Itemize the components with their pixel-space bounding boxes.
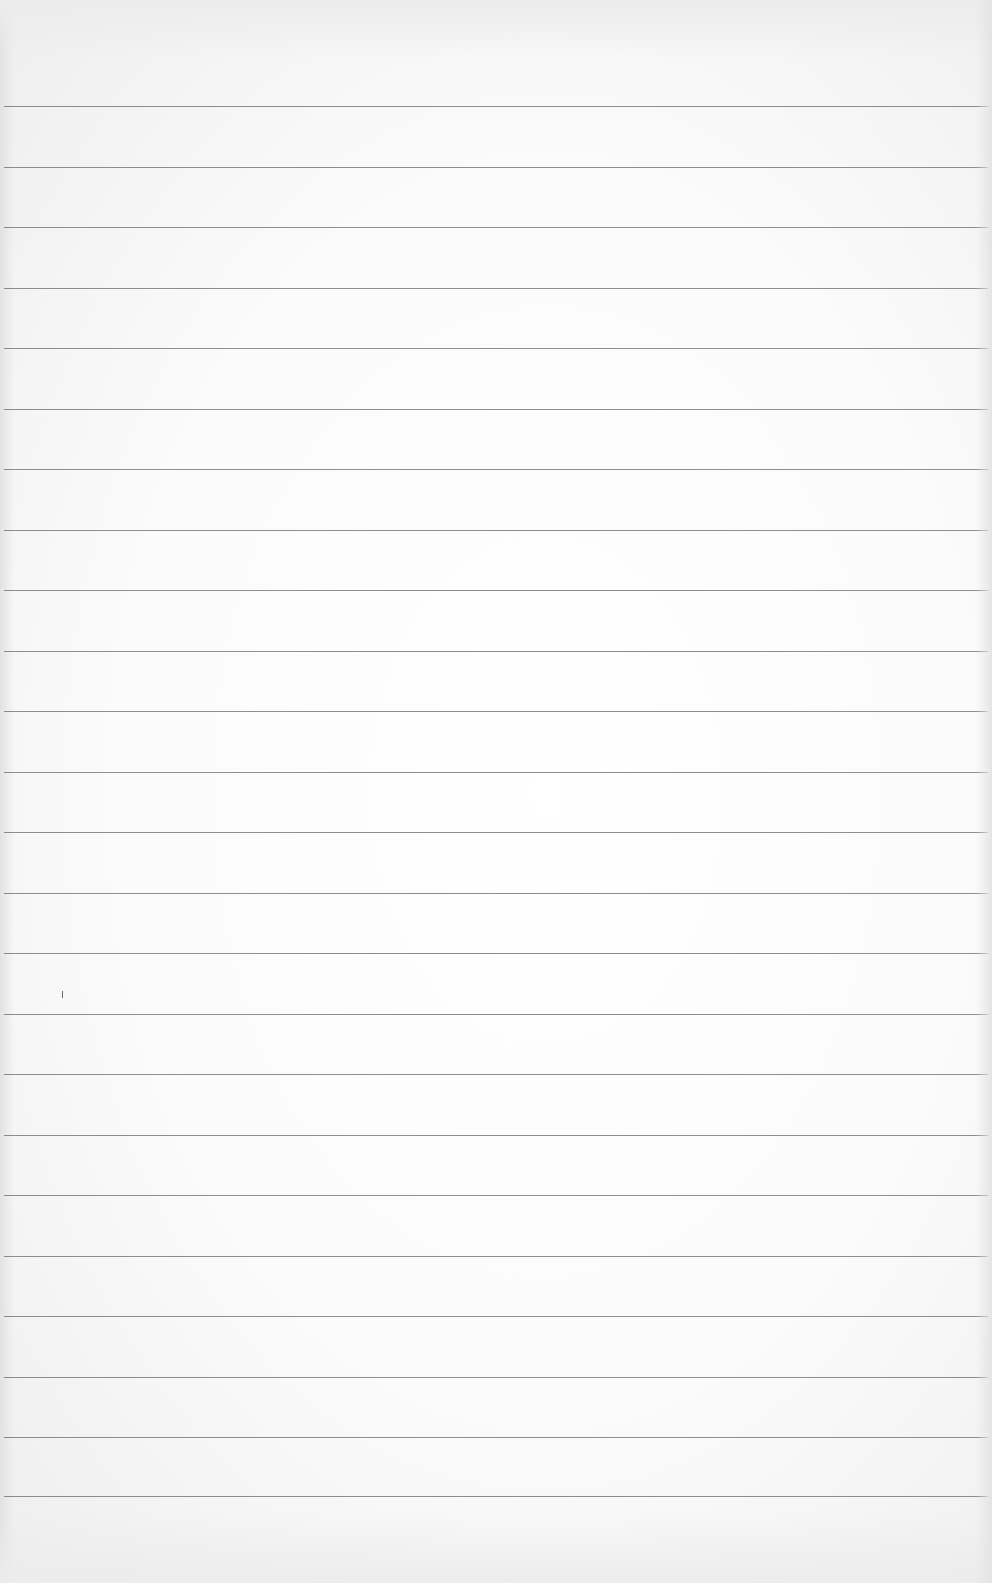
ruled-line [4, 1014, 988, 1015]
ruled-line [4, 1256, 988, 1257]
top-edge-shadow [0, 0, 992, 60]
ruled-line [4, 1316, 988, 1317]
ruled-line [4, 590, 988, 591]
ruled-line [4, 227, 988, 228]
ruled-line [4, 530, 988, 531]
ruled-line [4, 651, 988, 652]
ruled-line [4, 409, 988, 410]
ruled-line [4, 348, 988, 349]
ruled-line [4, 711, 988, 712]
pencil-tick-mark [62, 991, 63, 998]
ruled-line [4, 1135, 988, 1136]
bottom-edge-shadow [0, 1513, 992, 1583]
ruled-line [4, 1377, 988, 1378]
ruled-line [4, 167, 988, 168]
ruled-line [4, 106, 988, 107]
ruled-line [4, 1437, 988, 1438]
ruled-line [4, 469, 988, 470]
ruled-line [4, 288, 988, 289]
ruled-line [4, 953, 988, 954]
ruled-line [4, 1496, 988, 1497]
lined-paper-sheet [0, 0, 992, 1583]
ruled-line [4, 832, 988, 833]
ruled-line [4, 893, 988, 894]
ruled-line [4, 772, 988, 773]
ruled-line [4, 1195, 988, 1196]
ruled-line [4, 1074, 988, 1075]
